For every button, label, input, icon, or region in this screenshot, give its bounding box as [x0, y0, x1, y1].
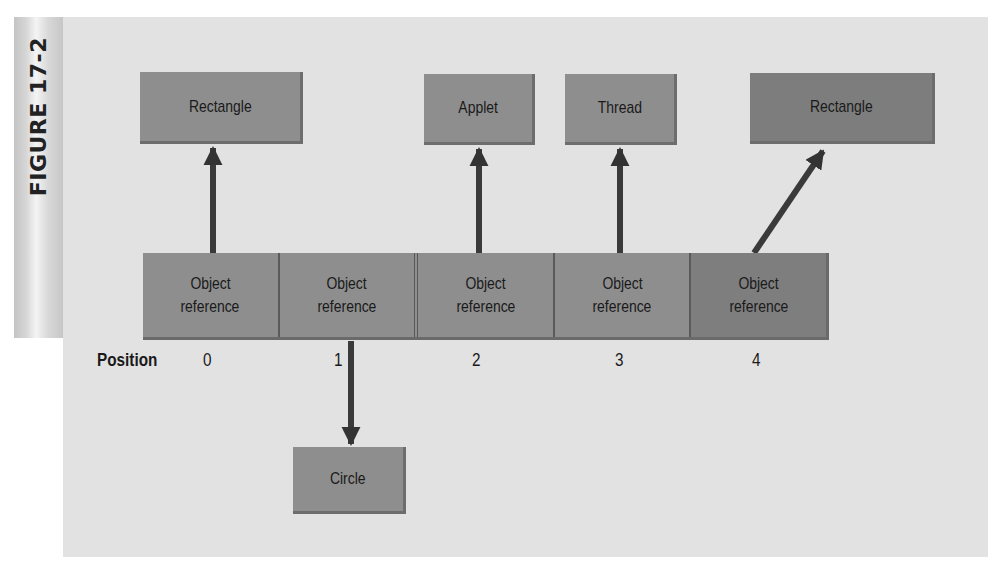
array-cell-4: Object reference — [691, 253, 826, 337]
arrow-4-to-rectangle — [754, 151, 823, 253]
position-index-2: 2 — [472, 350, 481, 371]
position-label: Position — [97, 350, 157, 371]
position-index-0: 0 — [203, 350, 212, 371]
position-index-4: 4 — [752, 350, 761, 371]
position-index-3: 3 — [615, 350, 624, 371]
array-cell-2: Object reference — [418, 253, 555, 337]
array-cell-1: Object reference — [280, 253, 419, 337]
array-cell-3: Object reference — [555, 253, 692, 337]
array-cell-0: Object reference — [143, 253, 280, 337]
object-reference-array: Object reference Object reference Object… — [143, 253, 829, 340]
position-index-1: 1 — [334, 350, 343, 371]
